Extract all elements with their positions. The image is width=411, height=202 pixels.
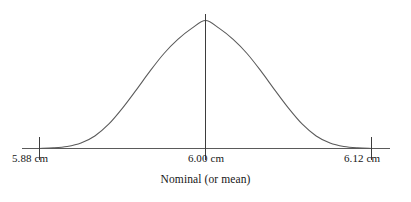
tick-label-upper-spec-limit: 6.12 cm [344,152,380,165]
bell-curve-figure: 5.88 cm 6.00 cm 6.12 cm Nominal (or mean… [0,0,411,202]
tick-label-nominal-mean: 6.00 cm [168,152,244,165]
tick-label-lower-spec-limit: 5.88 cm [12,152,48,165]
x-axis-caption: Nominal (or mean) [0,172,411,186]
